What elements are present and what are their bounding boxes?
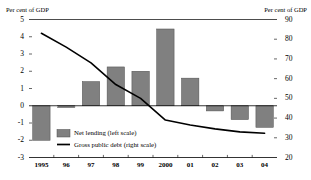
x-tick-label: 1995 xyxy=(27,161,55,169)
x-tick-label: 96 xyxy=(52,161,80,169)
bar xyxy=(256,106,273,128)
left-tick-label: -1 xyxy=(8,119,24,127)
left-tick-label: 0 xyxy=(8,102,24,110)
x-tick-label: 97 xyxy=(77,161,105,169)
bar xyxy=(107,67,124,106)
legend-label-net-lending: Net lending (left scale) xyxy=(74,129,136,137)
x-tick-label: 03 xyxy=(226,161,254,169)
right-tick-label: 70 xyxy=(285,55,303,63)
right-tick-label: 90 xyxy=(285,16,303,24)
right-tick-label: 80 xyxy=(285,35,303,43)
chart-container: Per cent of GDP Per cent of GDP 543210-1… xyxy=(0,0,311,180)
x-tick-label: 99 xyxy=(127,161,155,169)
bar-series xyxy=(33,29,274,140)
left-tick-label: 1 xyxy=(8,85,24,93)
left-tick-label: 2 xyxy=(8,67,24,75)
x-tick-label: 04 xyxy=(251,161,279,169)
bar xyxy=(132,71,149,106)
x-tick-label: 98 xyxy=(102,161,130,169)
bar xyxy=(182,78,199,106)
left-tick-label: -2 xyxy=(8,136,24,144)
x-tick-label: 02 xyxy=(201,161,229,169)
legend-markers xyxy=(57,130,70,145)
right-tick-label: 20 xyxy=(285,154,303,162)
x-tick-label: 2000 xyxy=(151,161,179,169)
legend-label-gross-public-debt: Gross public debt (right scale) xyxy=(74,141,156,149)
chart-plot-area xyxy=(0,0,311,180)
x-tick-label: 01 xyxy=(176,161,204,169)
left-tick-label: -3 xyxy=(8,154,24,162)
left-tick-label: 5 xyxy=(8,16,24,24)
bar xyxy=(33,106,50,141)
bar xyxy=(82,82,99,106)
legend-swatch-net-lending xyxy=(57,130,70,138)
right-tick-label: 60 xyxy=(285,75,303,83)
left-tick-label: 3 xyxy=(8,50,24,58)
left-tick-label: 4 xyxy=(8,33,24,41)
right-tick-label: 40 xyxy=(285,114,303,122)
right-tick-label: 30 xyxy=(285,134,303,142)
bar xyxy=(206,106,223,111)
bar xyxy=(231,106,248,120)
right-tick-label: 50 xyxy=(285,94,303,102)
bar xyxy=(157,29,174,106)
